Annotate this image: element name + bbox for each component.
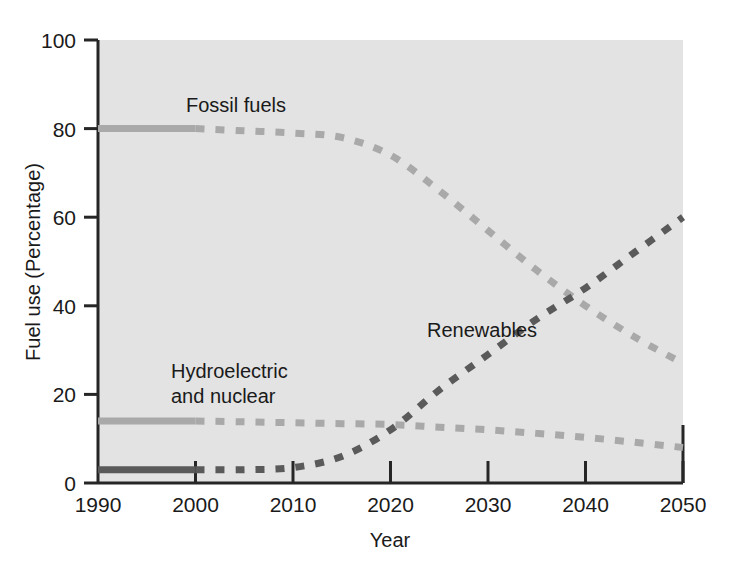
y-tick-label: 100 — [41, 29, 76, 52]
x-tick-label: 2050 — [660, 493, 707, 516]
y-tick-label: 0 — [64, 472, 76, 495]
x-tick-label: 2040 — [562, 493, 609, 516]
y-axis-title: Fuel use (Percentage) — [22, 163, 44, 361]
series-label-hydro-line2: and nuclear — [171, 385, 276, 407]
series-label-fossil-fuels: Fossil fuels — [186, 94, 286, 116]
series-label-renewables: Renewables — [427, 319, 537, 341]
y-tick-label: 80 — [53, 118, 76, 141]
y-tick-label: 20 — [53, 383, 76, 406]
x-tick-label: 2000 — [172, 493, 219, 516]
fuel-use-line-chart: 020406080100 199020002010202020302040205… — [0, 0, 731, 568]
x-tick-label: 2010 — [270, 493, 317, 516]
x-axis-title: Year — [370, 529, 411, 551]
x-tick-label: 2020 — [367, 493, 414, 516]
x-tick-label: 1990 — [75, 493, 122, 516]
x-tick-label: 2030 — [465, 493, 512, 516]
series-label-hydro-line1: Hydroelectric — [171, 360, 288, 382]
y-tick-label: 40 — [53, 295, 76, 318]
y-tick-label: 60 — [53, 206, 76, 229]
